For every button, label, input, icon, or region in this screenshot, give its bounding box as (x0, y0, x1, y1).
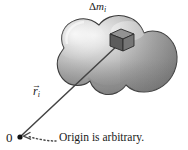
dotted-arrow-icon (24, 133, 57, 142)
figure-canvas (0, 0, 188, 150)
dotted-arrow-shaft (27, 136, 56, 141)
position-vector-label: →ri (33, 85, 40, 99)
origin-dot-icon (17, 134, 22, 139)
vector-arrow-overbar: → (32, 81, 41, 90)
vector-symbol-wrap: →r (33, 85, 38, 97)
origin-label: 0 (6, 131, 13, 144)
rigid-body-blob (50, 10, 188, 105)
vector-subscript: i (38, 90, 40, 99)
mass-subscript: i (104, 5, 106, 14)
origin-caption: Origin is arbitrary. (59, 132, 144, 144)
physics-figure: Δmi →ri 0 Origin is arbitrary. (0, 0, 188, 150)
mass-element-label: Δmi (89, 1, 106, 14)
mass-element-cube-icon (110, 29, 134, 51)
mass-symbol: m (96, 0, 104, 12)
blob-highlight-left (54, 20, 106, 60)
